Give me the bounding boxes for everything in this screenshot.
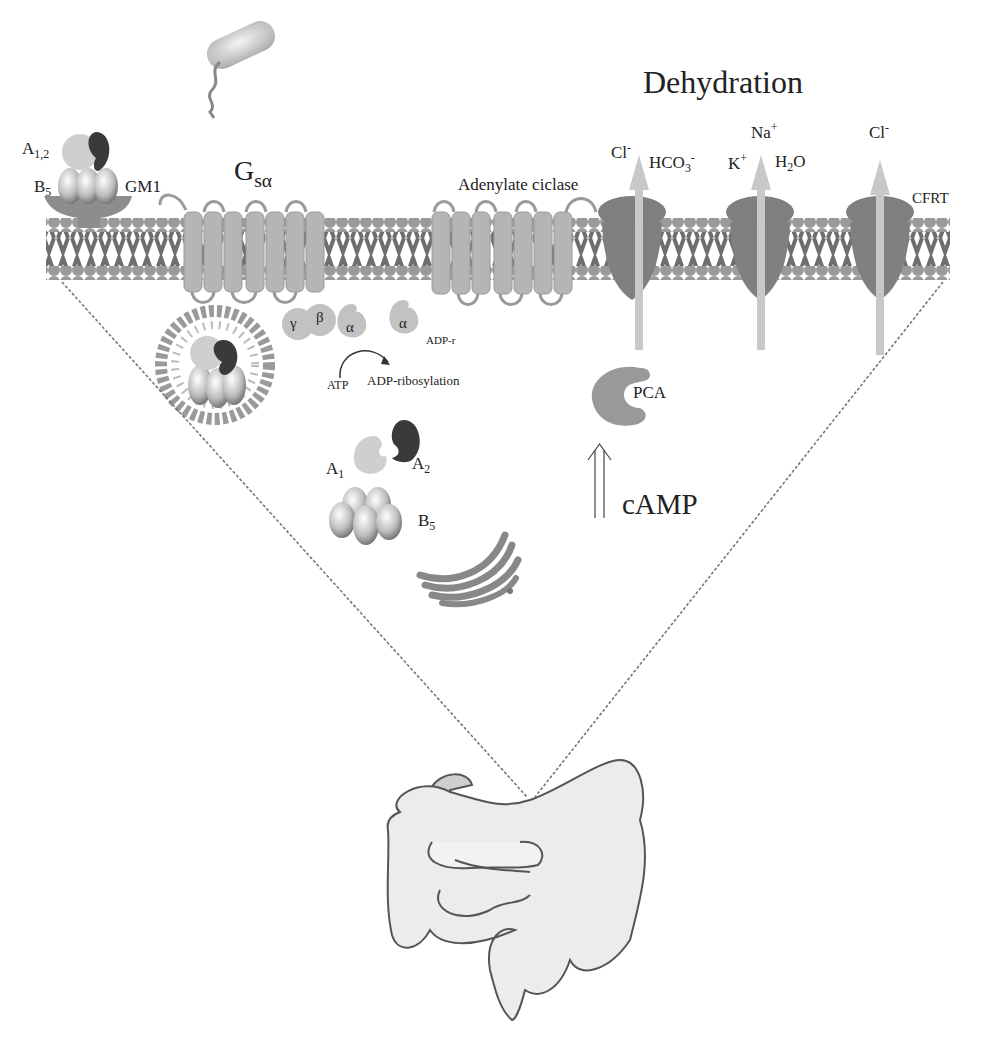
camp-label: cAMP (622, 490, 698, 519)
endosome-vesicle-icon (161, 311, 269, 419)
gamma-label: γ (290, 316, 297, 331)
toxin-a-subunits-icon (354, 420, 420, 474)
adp-ribosylation-label: ADP-ribosylation (367, 374, 459, 387)
dehydration-title: Dehydration (643, 66, 803, 98)
toxin-b5-label: B5 (34, 178, 51, 199)
chloride-ion-label-1: Cl- (611, 142, 631, 161)
ion-channel-1 (598, 196, 666, 300)
b5-label: B5 (418, 512, 435, 533)
vesicle-dot (507, 588, 513, 594)
water-label: H2O (775, 153, 806, 174)
right-zoom-connector (535, 282, 943, 797)
potassium-ion-label: K+ (728, 153, 747, 172)
adenylate-cyclase-label: Adenylate ciclase (458, 176, 578, 193)
vibrio-bacterium-icon (202, 16, 280, 118)
bicarbonate-label: HCO3- (649, 152, 695, 175)
adenylate-cyclase (432, 199, 596, 305)
chloride-ion-label-2: Cl- (869, 122, 889, 141)
gm1-label: GM1 (125, 178, 161, 195)
cholera-toxin-holotoxin-icon (58, 132, 118, 204)
sodium-ion-label: Na+ (751, 122, 778, 141)
a1-label: A1 (326, 460, 344, 481)
adp-r-label: ADP-r (426, 335, 455, 346)
left-zoom-connector (62, 282, 527, 797)
pca-label: PCA (633, 384, 666, 401)
alpha-label-2: α (399, 316, 407, 331)
toxin-a12-label: A1,2 (22, 140, 49, 161)
atp-label: ATP (327, 379, 348, 391)
cholera-mechanism-diagram (0, 0, 990, 1042)
a2-label: A2 (412, 455, 430, 476)
cfrt-label: CFRT (912, 191, 949, 206)
gs-alpha-label: Gsα (234, 157, 272, 190)
camp-increase-arrow (588, 444, 611, 518)
toxin-b5-pentamer-icon (329, 487, 402, 545)
gs-alpha-receptor (160, 195, 324, 303)
intestine-icon (388, 760, 645, 1020)
beta-label: β (316, 310, 324, 325)
alpha-label-1: α (346, 320, 354, 335)
golgi-apparatus-icon (420, 535, 518, 604)
